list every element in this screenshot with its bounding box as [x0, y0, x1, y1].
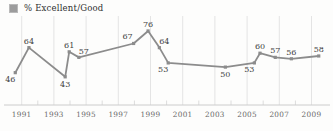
data-point-marker — [158, 46, 161, 49]
data-point-label: 50 — [220, 70, 230, 79]
data-point-marker — [253, 61, 256, 64]
x-tick-label: 1999 — [141, 110, 161, 119]
trend-line-chart: 1991199319951997199920012003200520072009… — [0, 0, 333, 131]
data-point-label: 76 — [143, 20, 153, 29]
gallup-trend-chart-card: % Excellent/Good 19911993199519971999200… — [0, 0, 333, 131]
x-tick-label: 1993 — [44, 110, 64, 119]
data-point-label: 43 — [60, 80, 70, 89]
data-point-label: 57 — [79, 47, 89, 56]
data-point-label: 53 — [244, 65, 254, 74]
data-point-marker — [258, 52, 261, 55]
data-point-marker — [224, 66, 227, 69]
data-point-label: 58 — [314, 45, 324, 54]
legend: % Excellent/Good — [9, 3, 103, 14]
legend-label: % Excellent/Good — [24, 3, 103, 14]
data-point-label: 61 — [64, 41, 74, 50]
x-tick-label: 1991 — [12, 110, 32, 119]
data-point-marker — [167, 61, 170, 64]
data-point-label: 46 — [5, 75, 15, 84]
data-point-marker — [27, 46, 30, 49]
x-tick-label: 2005 — [237, 110, 257, 119]
data-point-label: 57 — [270, 46, 280, 55]
data-point-label: 53 — [158, 65, 168, 74]
data-point-marker — [68, 50, 71, 53]
data-point-marker — [132, 42, 135, 45]
data-point-marker — [64, 75, 67, 78]
x-tick-label: 2009 — [302, 110, 322, 119]
data-point-marker — [290, 57, 293, 60]
x-tick-label: 1995 — [76, 110, 96, 119]
data-point-marker — [317, 54, 320, 57]
data-point-label: 56 — [286, 48, 296, 57]
data-point-marker — [77, 56, 80, 59]
data-point-marker — [14, 71, 17, 74]
x-tick-label: 1997 — [108, 110, 128, 119]
data-point-marker — [274, 56, 277, 59]
data-point-label: 67 — [123, 32, 133, 41]
data-point-marker — [146, 29, 149, 32]
data-point-label: 64 — [159, 37, 169, 46]
x-tick-label: 2001 — [173, 110, 193, 119]
x-tick-label: 2003 — [205, 110, 225, 119]
x-tick-label: 2007 — [269, 110, 289, 119]
data-point-label: 60 — [255, 42, 265, 51]
legend-swatch-icon — [9, 4, 18, 13]
data-point-label: 64 — [24, 37, 34, 46]
